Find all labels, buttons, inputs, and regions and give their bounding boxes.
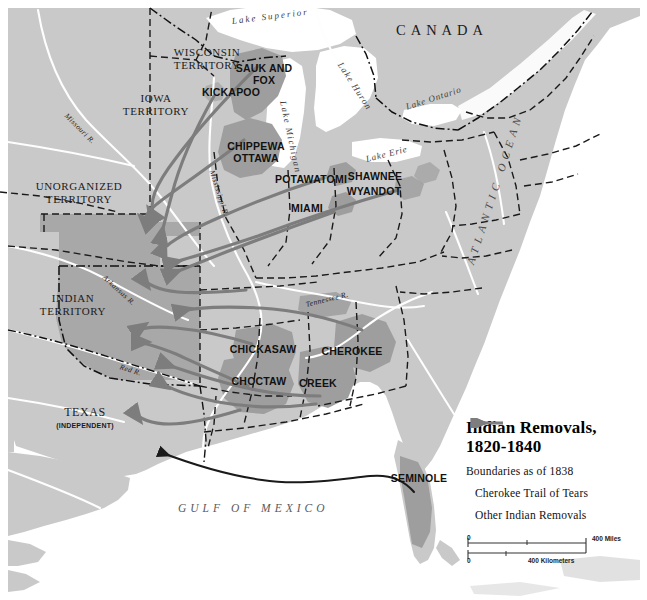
label-wyandot: WYANDOT bbox=[346, 185, 402, 197]
legend-other-label: Other Indian Removals bbox=[475, 509, 587, 521]
label-gulf-of-mexico: GULF OF MEXICO bbox=[178, 502, 329, 514]
label-chickasaw: CHICKASAW bbox=[229, 343, 297, 355]
label-texas-independent: (INDEPENDENT) bbox=[50, 422, 120, 429]
label-kickapoo: KICKAPOO bbox=[199, 86, 263, 98]
label-choctaw: CHOCTAW bbox=[229, 375, 289, 387]
legend-item-cherokee: Cherokee Trail of Tears bbox=[466, 487, 642, 499]
scale-miles-max: 400 Miles bbox=[592, 535, 621, 542]
scale-km-zero: 0 bbox=[467, 557, 471, 564]
scale-bar: 0 400 Miles 0 400 Kilometers bbox=[466, 533, 638, 567]
label-unorganized-territory: UNORGANIZEDTERRITORY bbox=[24, 180, 134, 206]
label-sauk-and-fox: SAUK ANDFOX bbox=[232, 62, 296, 86]
scale-miles-zero: 0 bbox=[467, 534, 471, 541]
label-seminole: SEMINOLE bbox=[390, 472, 448, 484]
label-canada: CANADA bbox=[396, 22, 488, 39]
label-iowa-territory: IOWATERRITORY bbox=[118, 92, 194, 118]
label-creek: CREEK bbox=[297, 377, 339, 389]
legend-item-other: Other Indian Removals bbox=[466, 509, 642, 521]
label-potawatomi: POTAWATOMI bbox=[274, 173, 348, 185]
map-legend: Indian Removals, 1820-1840 Boundaries as… bbox=[466, 418, 642, 567]
label-indian-territory: INDIANTERRITORY bbox=[28, 292, 118, 318]
legend-cherokee-label: Cherokee Trail of Tears bbox=[475, 487, 588, 499]
map-figure: CANADA ATLANTIC OCEAN GULF OF MEXICO Lak… bbox=[0, 0, 647, 600]
label-texas: TEXAS bbox=[50, 406, 120, 419]
label-shawnee: SHAWNEE bbox=[347, 170, 403, 182]
legend-title-line2: 1820-1840 bbox=[466, 437, 541, 456]
legend-boundaries-note: Boundaries as of 1838 bbox=[466, 465, 642, 477]
label-cherokee: CHEROKEE bbox=[320, 345, 384, 357]
label-chippewa-ottawa: CHIPPEWAOTTAWA bbox=[222, 140, 290, 164]
scale-km-max: 400 Kilometers bbox=[528, 557, 574, 564]
label-miami: MIAMI bbox=[285, 202, 329, 214]
other-removal-arrow-icon bbox=[466, 418, 504, 428]
